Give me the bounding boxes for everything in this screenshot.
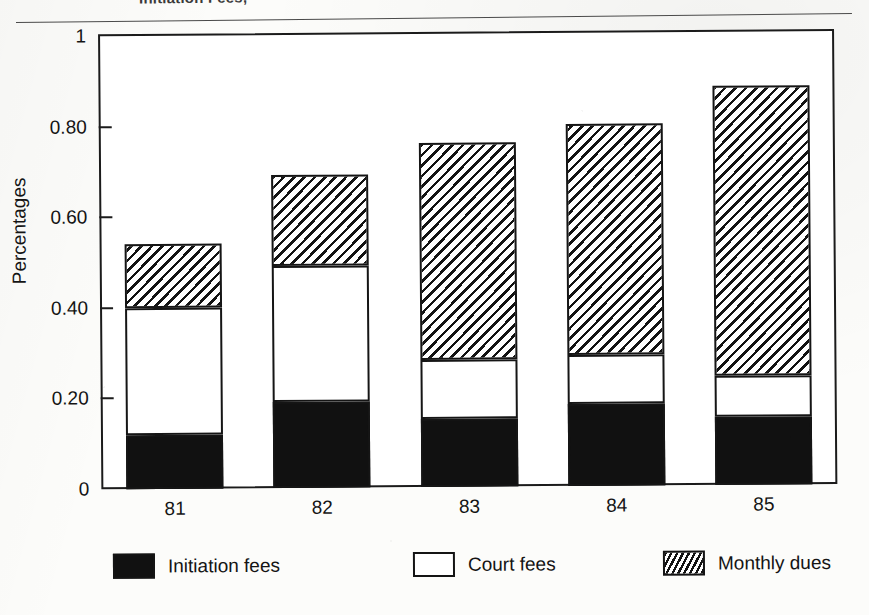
bar-segment-initiation-83[interactable] — [420, 418, 517, 487]
y-axis-tick-label-text: 1 — [75, 26, 86, 45]
x-axis-label-83: 83 — [429, 495, 509, 518]
legend-label: Court fees — [468, 553, 556, 575]
x-axis-label-84: 84 — [577, 494, 657, 517]
bar-segment-initiation-85[interactable] — [715, 416, 812, 485]
legend-swatch-monthly — [663, 551, 705, 576]
y-axis-tick-label: 0.20 — [1, 399, 89, 400]
y-axis-tick-label-text: 0.80 — [50, 117, 87, 136]
bar-segment-court-82[interactable] — [272, 265, 370, 402]
bar-segment-initiation-81[interactable] — [126, 434, 223, 489]
bar-81[interactable] — [123, 1, 224, 489]
y-axis-tick-label-text: 0.60 — [50, 208, 87, 227]
x-axis-label-81: 81 — [135, 498, 215, 521]
bar-85[interactable] — [712, 0, 813, 485]
y-axis-tick-label: 0 — [1, 489, 89, 490]
y-axis-tick — [100, 307, 113, 309]
chart-legend: Initiation feesCourt feesMonthly dues — [0, 550, 869, 595]
bar-segment-court-81[interactable] — [125, 307, 223, 435]
y-axis-tick-label: 0.80 — [0, 127, 87, 128]
bar-segment-court-83[interactable] — [420, 359, 517, 419]
y-axis-title: Percentages — [8, 178, 31, 285]
bar-82[interactable] — [270, 0, 371, 488]
bar-segment-initiation-84[interactable] — [567, 404, 665, 486]
legend-swatch-initiation — [113, 553, 155, 578]
stacked-bar-chart: Percentages 10.800.600.400.200 818283848… — [0, 0, 869, 615]
y-axis-tick-label-text: 0.40 — [51, 298, 88, 317]
y-axis-tick-label: 0.40 — [0, 308, 88, 309]
bar-segment-monthly-83[interactable] — [418, 142, 517, 360]
bar-84[interactable] — [564, 0, 665, 486]
bar-segment-initiation-82[interactable] — [273, 401, 371, 488]
scanned-page: Initiation Fees, Percentages 10.800.600.… — [0, 0, 869, 615]
y-axis-tick-label: 1 — [0, 36, 86, 37]
bar-segment-monthly-85[interactable] — [712, 85, 811, 376]
bar-segment-monthly-81[interactable] — [125, 244, 222, 308]
bar-segment-monthly-84[interactable] — [565, 123, 664, 355]
legend-item-monthly-dues[interactable]: Monthly dues — [663, 550, 831, 576]
y-axis-tick — [101, 398, 114, 400]
bar-segment-monthly-82[interactable] — [271, 175, 369, 266]
bar-segment-court-85[interactable] — [714, 375, 811, 416]
bar-83[interactable] — [417, 0, 518, 487]
y-axis-title-wrap: Percentages — [36, 3, 37, 4]
bar-segment-court-84[interactable] — [567, 354, 664, 405]
y-axis-tick — [99, 216, 112, 218]
legend-label: Monthly dues — [718, 551, 831, 574]
legend-swatch-court — [413, 552, 455, 577]
y-axis-tick — [99, 126, 112, 128]
x-axis-label-82: 82 — [282, 496, 362, 519]
y-axis-tick-label-text: 0 — [79, 479, 90, 498]
x-axis-label-85: 85 — [724, 493, 804, 516]
legend-label: Initiation fees — [168, 554, 280, 577]
y-axis-tick-label-text: 0.20 — [52, 389, 89, 408]
legend-item-initiation-fees[interactable]: Initiation fees — [113, 553, 280, 579]
legend-item-court-fees[interactable]: Court fees — [413, 551, 556, 577]
